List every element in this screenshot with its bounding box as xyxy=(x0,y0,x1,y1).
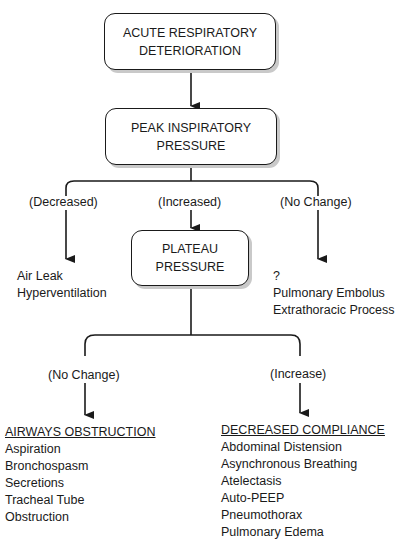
node-plateau-pressure: PLATEAU PRESSURE xyxy=(131,230,249,286)
decreased-causes: Air Leak Hyperventilation xyxy=(17,268,107,302)
no-change-causes: ? Pulmonary Embolus Extrathoracic Proces… xyxy=(273,268,395,319)
node-label: ACUTE RESPIRATORY xyxy=(123,24,257,42)
list-item: Obstruction xyxy=(5,509,155,526)
node-label: PRESSURE xyxy=(157,137,226,155)
cause-item: Pulmonary Embolus xyxy=(273,285,395,302)
list-item: Asynchronous Breathing xyxy=(221,456,385,473)
list-item: Abdominal Distension xyxy=(221,439,385,456)
list-heading: DECREASED COMPLIANCE xyxy=(221,422,385,439)
list-item: Aspiration xyxy=(5,441,155,458)
list-heading: AIRWAYS OBSTRUCTION xyxy=(5,424,155,441)
branch-label-decreased: (Decreased) xyxy=(29,195,98,209)
branch-label-increased: (Increased) xyxy=(158,195,221,209)
branch-label-plateau-increase: (Increase) xyxy=(270,367,326,381)
list-item: Atelectasis xyxy=(221,473,385,490)
branch-label-no-change: (No Change) xyxy=(280,195,352,209)
plateau-branch-line xyxy=(85,335,300,356)
airways-obstruction-list: AIRWAYS OBSTRUCTION Aspiration Bronchosp… xyxy=(5,424,155,526)
node-label: PEAK INSPIRATORY xyxy=(131,119,251,137)
node-label: PRESSURE xyxy=(156,258,225,276)
node-label: DETERIORATION xyxy=(139,42,241,60)
node-acute-respiratory-deterioration: ACUTE RESPIRATORY DETERIORATION xyxy=(104,13,276,70)
peak-branch-line xyxy=(66,181,318,196)
branch-label-plateau-no-change: (No Change) xyxy=(48,368,120,382)
cause-item: ? xyxy=(273,268,395,285)
decreased-compliance-list: DECREASED COMPLIANCE Abdominal Distensio… xyxy=(221,422,385,541)
list-item: Secretions xyxy=(5,475,155,492)
cause-item: Air Leak xyxy=(17,268,107,285)
node-peak-inspiratory-pressure: PEAK INSPIRATORY PRESSURE xyxy=(105,108,277,165)
node-label: PLATEAU xyxy=(162,240,218,258)
list-item: Pulmonary Edema xyxy=(221,524,385,541)
list-item: Auto-PEEP xyxy=(221,490,385,507)
cause-item: Extrathoracic Process xyxy=(273,302,395,319)
cause-item: Hyperventilation xyxy=(17,285,107,302)
list-item: Pneumothorax xyxy=(221,507,385,524)
list-item: Tracheal Tube xyxy=(5,492,155,509)
list-item: Bronchospasm xyxy=(5,458,155,475)
